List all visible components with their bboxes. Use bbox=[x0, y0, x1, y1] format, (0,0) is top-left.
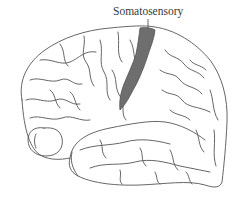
brain-outline bbox=[21, 26, 227, 187]
brain-diagram: Somatosensory bbox=[0, 0, 236, 201]
cerebellum bbox=[28, 128, 62, 156]
somatosensory-label: Somatosensory bbox=[113, 5, 183, 17]
brain-illustration bbox=[0, 0, 236, 201]
somatosensory-region bbox=[120, 28, 155, 110]
